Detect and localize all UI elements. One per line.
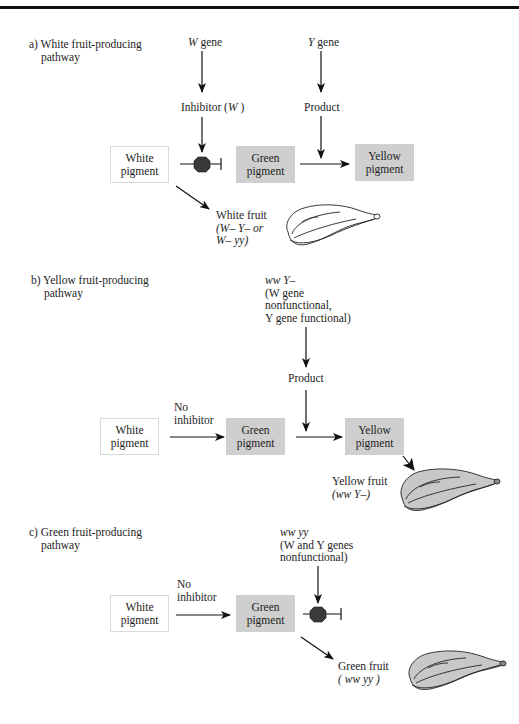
yellow-fruit-label: Yellow fruit (ww Y–)	[332, 475, 387, 500]
panel-c-genotype-note: ww yy (W and Y genes nonfunctional)	[280, 526, 353, 564]
w-gene-label: W gene	[188, 36, 222, 49]
inhibitor-symbol-a	[194, 157, 210, 172]
white-pigment-box-c: White pigment	[110, 595, 169, 632]
no-inhibitor-label-c: No inhibitor	[177, 578, 217, 603]
white-pigment-box-a: White pigment	[110, 146, 169, 183]
green-pigment-box-a: Green pigment	[236, 146, 295, 183]
arrow-green-to-green-fruit	[301, 637, 333, 659]
y-gene-label: Y gene	[308, 36, 339, 49]
green-fruit-label: Green fruit ( ww yy )	[338, 660, 389, 685]
inhibitor-label: Inhibitor (W )	[181, 101, 244, 114]
product-label-b: Product	[288, 372, 324, 385]
panel-b-title: b) Yellow fruit-producing pathway	[31, 274, 149, 299]
green-pigment-box-b: Green pigment	[226, 418, 285, 455]
white-pigment-box-b: White pigment	[100, 418, 159, 455]
panel-a-title: a) White fruit-producing pathway	[29, 38, 142, 63]
panel-c-title: c) Green fruit-producing pathway	[29, 526, 142, 551]
product-label-a: Product	[304, 101, 340, 114]
arrow-yellow-to-yellow-fruit	[403, 456, 414, 470]
white-fruit-illustration	[287, 205, 380, 245]
yellow-pigment-box-a: Yellow pigment	[355, 144, 414, 181]
white-fruit-label: White fruit (W– Y– or W– yy)	[216, 209, 267, 247]
yellow-fruit-illustration	[401, 469, 500, 511]
no-inhibitor-label-b: No inhibitor	[174, 401, 214, 426]
green-pigment-box-c: Green pigment	[236, 595, 295, 632]
green-fruit-illustration	[409, 651, 506, 690]
panel-b-genotype-note: ww Y– (W gene nonfunctional, Y gene func…	[265, 274, 351, 324]
inhibitor-symbol-c	[310, 607, 326, 622]
arrow-white-to-white-fruit	[176, 186, 209, 209]
yellow-pigment-box-b: Yellow pigment	[345, 418, 404, 455]
